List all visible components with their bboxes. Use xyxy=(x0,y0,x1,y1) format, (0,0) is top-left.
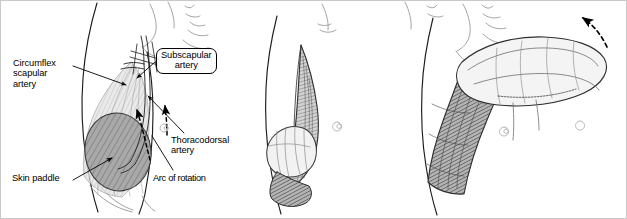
latissimus-dorsi-flap-figure: Circumflex scapular artery Subscapular a… xyxy=(0,0,627,219)
label-arc-of-rotation: Arc of rotation xyxy=(153,173,206,183)
label-skin-paddle: Skin paddle xyxy=(12,173,60,183)
panel2-anatomic-marks xyxy=(333,122,342,131)
leader-subscapular xyxy=(137,62,155,78)
panel3-anatomic-marks xyxy=(500,121,585,136)
panel3-rotated-skin-paddle xyxy=(457,37,607,106)
panel2-head-outline xyxy=(318,4,336,32)
label-circumflex-scapular-artery: Circumflex scapular artery xyxy=(13,58,56,89)
label-thoracodorsal-artery: Thoracodorsal artery xyxy=(171,135,229,156)
panel2-skin-paddle-rolled xyxy=(267,126,317,177)
panel-3-flap-rotation xyxy=(405,2,607,215)
label-subscapular-artery: Subscapular artery xyxy=(156,48,217,74)
panel-2-flap-elevation xyxy=(266,4,342,214)
panel3-rotation-arrow xyxy=(583,18,607,47)
figure-canvas xyxy=(0,0,627,219)
leader-arc-of-rotation xyxy=(152,136,173,170)
